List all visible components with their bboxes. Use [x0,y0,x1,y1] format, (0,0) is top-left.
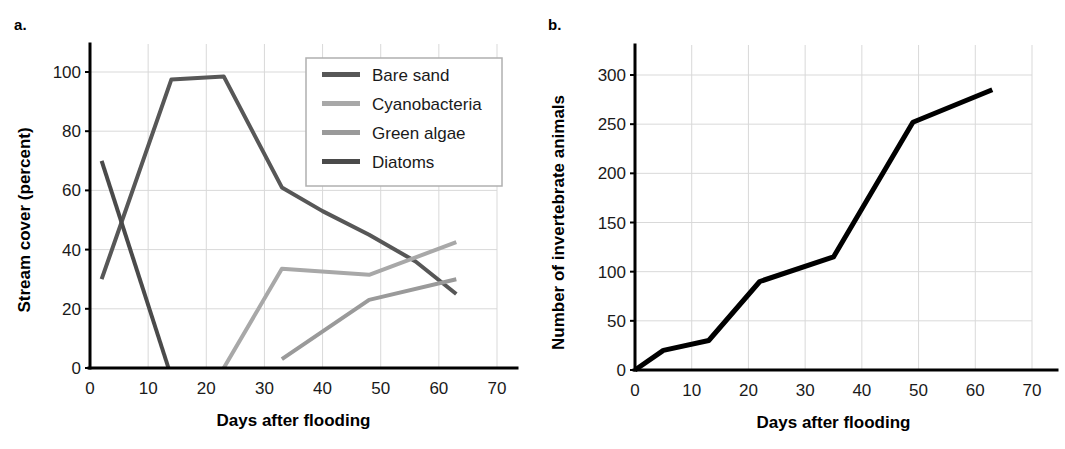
series-line-cyanobacteria [224,242,457,368]
panel-a: a. 020406080100010203040506070Days after… [0,0,532,449]
y-tick-label: 200 [598,164,626,183]
x-tick-label: 10 [682,381,701,400]
x-tick-label: 0 [630,381,639,400]
x-tick-label: 20 [739,381,758,400]
x-tick-label: 60 [966,381,985,400]
y-tick-label: 20 [62,300,81,319]
x-tick-label: 40 [852,381,871,400]
x-tick-label: 0 [85,379,94,398]
x-tick-label: 50 [371,379,390,398]
x-tick-label: 70 [1023,381,1042,400]
y-tick-label: 150 [598,214,626,233]
x-tick-label: 40 [313,379,332,398]
series-line-invertebrate-animals [635,90,992,370]
gridlines [635,45,1032,370]
y-tick-label: 80 [62,122,81,141]
y-tick-label: 40 [62,241,81,260]
legend-label-green-algae: Green algae [372,124,466,143]
y-tick-label: 300 [598,66,626,85]
x-tick-label: 50 [909,381,928,400]
y-tick-label: 100 [53,63,81,82]
y-tick-label: 100 [598,263,626,282]
panel-b: b. 050100150200250300010203040506070Days… [532,0,1065,449]
y-tick-label: 60 [62,181,81,200]
x-tick-label: 10 [139,379,158,398]
series-line-diatoms [102,161,169,368]
chart-a-stream-cover: 020406080100010203040506070Days after fl… [0,0,532,449]
y-tick-label: 0 [72,359,81,378]
x-tick-labels: 010203040506070 [630,381,1041,400]
x-tick-label: 30 [255,379,274,398]
y-axis-title: Stream cover (percent) [15,127,34,312]
legend-label-bare-sand: Bare sand [372,66,450,85]
x-tick-label: 20 [197,379,216,398]
x-axis-title: Days after flooding [757,413,911,432]
series-line-green-algae [282,279,456,359]
y-tick-labels: 050100150200250300 [598,66,635,380]
y-tick-label: 0 [617,361,626,380]
figure-container: a. 020406080100010203040506070Days after… [0,0,1065,449]
x-tick-label: 30 [796,381,815,400]
legend-label-cyanobacteria: Cyanobacteria [372,95,482,114]
y-tick-label: 50 [607,312,626,331]
y-tick-label: 250 [598,115,626,134]
x-tick-labels: 010203040506070 [85,379,506,398]
legend: Bare sandCyanobacteriaGreen algaeDiatoms [306,58,502,186]
y-tick-labels: 020406080100 [53,63,90,378]
x-tick-label: 70 [488,379,507,398]
x-tick-label: 60 [429,379,448,398]
y-axis-title: Number of invertebrate animals [549,95,568,350]
chart-b-invertebrate-count: 050100150200250300010203040506070Days af… [532,0,1065,449]
legend-label-diatoms: Diatoms [372,153,434,172]
x-axis-title: Days after flooding [217,411,371,430]
series-group [635,90,992,370]
